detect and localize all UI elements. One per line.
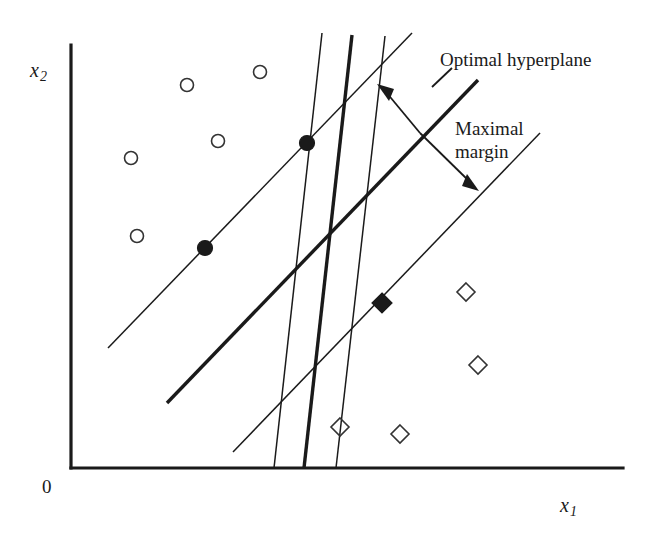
x-axis-label-subscript: 1 <box>570 504 577 519</box>
maximal-margin-annotation: Maximal margin <box>455 117 524 163</box>
axes-group <box>71 45 623 468</box>
open-circle-marker <box>212 135 225 148</box>
open-circle-marker <box>131 230 144 243</box>
maximal-margin-annotation-line2: margin <box>455 140 524 163</box>
optimal-hyperplane-annotation: Optimal hyperplane <box>440 48 591 71</box>
y-axis-label-base: x <box>30 59 39 81</box>
lower-margin-line <box>233 133 540 452</box>
optimal-hyperplane-group <box>167 80 478 403</box>
open-circle-marker <box>181 79 194 92</box>
open-diamond-marker <box>469 356 487 374</box>
filled-circle-support-vector <box>300 136 315 151</box>
x-axis-label: x1 <box>560 495 576 515</box>
maximal-margin-annotation-line1: Maximal <box>455 117 524 140</box>
y-axis-label-subscript: 2 <box>40 69 47 84</box>
margin-leader-upper-segment <box>386 92 420 133</box>
margin-boundaries-group <box>108 33 540 452</box>
origin-label: 0 <box>42 477 52 496</box>
open-diamond-marker <box>391 425 409 443</box>
x-axis-label-base: x <box>560 494 569 516</box>
filled-diamond-support-vector <box>372 293 392 313</box>
optimal-hyperplane-line <box>167 80 478 403</box>
filled-circle-support-vector <box>198 241 213 256</box>
upper-margin-line <box>108 33 412 348</box>
alternative-hyperplanes-group <box>274 33 385 468</box>
open-circle-marker <box>254 66 267 79</box>
open-circle-marker <box>125 152 138 165</box>
figure-canvas <box>0 0 650 546</box>
svm-figure: x2 x1 0 Optimal hyperplane Maximal margi… <box>0 0 650 546</box>
y-axis-label: x2 <box>30 60 46 80</box>
markers-group <box>125 66 488 444</box>
open-diamond-marker <box>457 283 475 301</box>
